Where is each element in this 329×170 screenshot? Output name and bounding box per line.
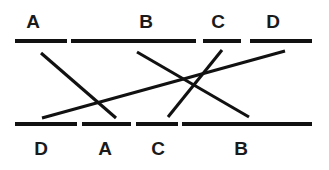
connector-2[interactable] [42, 51, 285, 118]
bottom-seg-4[interactable] [182, 122, 312, 126]
top-seg-3[interactable] [203, 39, 241, 43]
top-label-d: D [261, 12, 285, 31]
top-label-b: B [134, 12, 158, 31]
top-seg-4[interactable] [250, 39, 312, 43]
top-label-a: A [21, 12, 45, 31]
bottom-seg-3[interactable] [136, 122, 178, 126]
bottom-label-a: A [93, 139, 117, 158]
bottom-label-b: B [229, 139, 253, 158]
bottom-label-d: D [29, 139, 53, 158]
top-seg-1[interactable] [15, 39, 67, 43]
connector-1[interactable] [41, 53, 116, 118]
bottom-seg-2[interactable] [82, 122, 131, 126]
top-label-c: C [206, 12, 230, 31]
connector-3[interactable] [137, 52, 249, 117]
bottom-label-c: C [146, 139, 170, 158]
matching-diagram: ABCD DACB [0, 0, 329, 170]
top-seg-2[interactable] [71, 39, 196, 43]
connector-4[interactable] [168, 50, 222, 117]
bottom-seg-1[interactable] [15, 122, 77, 126]
